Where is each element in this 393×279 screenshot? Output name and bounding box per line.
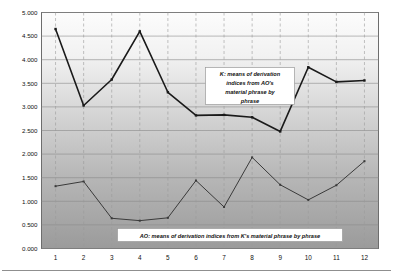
data-point-marker [195, 180, 197, 182]
data-point-marker [363, 79, 365, 81]
data-point-marker [335, 184, 337, 186]
data-point-marker [363, 160, 365, 162]
y-axis-tick-label: 1.500 [22, 174, 38, 181]
annotation-ao-series: AO: means of derivation indices from K's… [118, 229, 343, 242]
y-axis-tick-label: 5.000 [22, 9, 38, 16]
data-point-marker [54, 28, 56, 30]
data-point-marker [82, 104, 84, 106]
data-point-marker [223, 206, 225, 208]
chart-figure: 0.0000.5001.0001.5002.0002.5003.0003.500… [0, 0, 393, 279]
annotation-k-line-2: indices from AO's [226, 80, 273, 86]
data-point-marker [223, 114, 225, 116]
x-axis-tick-label: 6 [194, 254, 198, 261]
x-axis-tick-label: 1 [54, 254, 58, 261]
x-axis-tick-label: 10 [305, 254, 313, 261]
data-point-marker [307, 199, 309, 201]
y-axis-tick-label: 1.000 [22, 198, 38, 205]
annotation-k-line-3: material phrase by [225, 89, 275, 95]
y-axis-tick-label: 3.000 [22, 103, 38, 110]
data-point-marker [195, 114, 197, 116]
data-point-marker [55, 185, 57, 187]
x-axis-tick-label: 3 [110, 254, 114, 261]
x-axis-tick-label: 9 [278, 254, 282, 261]
data-point-marker [279, 184, 281, 186]
y-axis-tick-label: 0.500 [22, 221, 38, 228]
y-axis-tick-label: 2.000 [22, 150, 38, 157]
data-point-marker [83, 180, 85, 182]
line-chart: 0.0000.5001.0001.5002.0002.5003.0003.500… [0, 0, 393, 279]
x-axis-tick-label: 4 [138, 254, 142, 261]
data-point-marker [251, 116, 253, 118]
data-point-marker [167, 217, 169, 219]
annotation-ao-line-1: AO: means of derivation indices from K's… [139, 233, 320, 239]
annotation-k-line-1: K: means of derivation [220, 71, 281, 77]
y-axis-tick-label: 0.000 [22, 245, 38, 252]
data-point-marker [279, 130, 281, 132]
x-axis-tick-label: 12 [361, 254, 369, 261]
x-axis-tick-label: 5 [166, 254, 170, 261]
data-point-marker [251, 156, 253, 158]
x-axis-tick-label: 7 [222, 254, 226, 261]
data-point-marker [139, 220, 141, 222]
y-axis-tick-label: 3.500 [22, 80, 38, 87]
data-point-marker [167, 91, 169, 93]
x-axis-tick-label: 11 [333, 254, 340, 261]
y-axis-tick-label: 2.500 [22, 127, 38, 134]
x-axis-tick-label: 2 [82, 254, 86, 261]
y-axis-tick-label: 4.000 [22, 56, 38, 63]
data-point-marker [111, 78, 113, 80]
data-point-marker [111, 217, 113, 219]
data-point-marker [139, 30, 141, 32]
data-point-marker [307, 66, 309, 68]
x-axis-tick-label: 8 [250, 254, 254, 261]
y-axis-tick-label: 4.500 [22, 32, 38, 39]
annotation-k-line-4: phrase [240, 98, 259, 104]
data-point-marker [335, 81, 337, 83]
annotation-k-series: K: means of derivation indices from AO's… [206, 68, 295, 105]
